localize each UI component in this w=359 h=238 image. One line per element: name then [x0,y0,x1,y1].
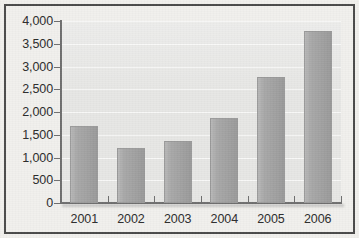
bar-2002 [117,148,145,203]
y-axis-tick-label: 500 [7,173,53,187]
gridline [61,135,341,136]
x-axis-label-2003: 2003 [154,212,201,226]
plot-area [61,21,341,203]
gridline [61,158,341,159]
y-axis-tick [54,21,61,22]
y-axis-tick-label: 1,500 [7,128,53,142]
x-axis-tick [108,196,109,203]
y-axis-tick [54,180,61,181]
x-axis-label-2006: 2006 [294,212,341,226]
bar-chart: 05001,0001,5002,0002,5003,0003,5004,000 … [6,6,353,232]
x-axis-tick [201,196,202,203]
y-axis-tick-label: 2,000 [7,105,53,119]
y-axis-tick [54,112,61,113]
x-axis-label-2001: 2001 [61,212,108,226]
y-axis-tick [54,89,61,90]
x-axis-tick [61,196,62,203]
y-axis-tick [54,44,61,45]
y-axis-tick-label: 3,500 [7,37,53,51]
chart-frame: 05001,0001,5002,0002,5003,0003,5004,000 … [4,4,355,234]
bar-2003 [164,141,192,203]
y-axis-tick [54,135,61,136]
scanned-page: 05001,0001,5002,0002,5003,0003,5004,000 … [0,0,359,238]
bar-2006 [304,31,332,203]
gridline [61,67,341,68]
x-axis-tick [341,196,342,203]
gridline [61,21,341,22]
bar-2004 [210,118,238,203]
y-axis-tick [54,67,61,68]
y-axis-labels: 05001,0001,5002,0002,5003,0003,5004,000 [6,6,53,238]
gridline [61,180,341,181]
gridline [61,44,341,45]
y-axis-tick-label: 1,000 [7,151,53,165]
x-axis-label-2004: 2004 [201,212,248,226]
x-axis-label-2002: 2002 [108,212,155,226]
y-axis-tick [54,158,61,159]
bar-2001 [70,126,98,203]
x-axis-label-2005: 2005 [248,212,295,226]
x-axis-tick [154,196,155,203]
x-axis-tick [294,196,295,203]
y-axis-tick-label: 2,500 [7,82,53,96]
y-axis-tick-label: 0 [7,196,53,210]
y-axis-tick-label: 4,000 [7,14,53,28]
y-axis-tick-label: 3,000 [7,60,53,74]
bar-2005 [257,77,285,203]
gridline [61,89,341,90]
y-axis-tick [54,203,61,204]
gridline [61,112,341,113]
x-axis-tick [248,196,249,203]
x-axis-shadow [62,204,344,207]
